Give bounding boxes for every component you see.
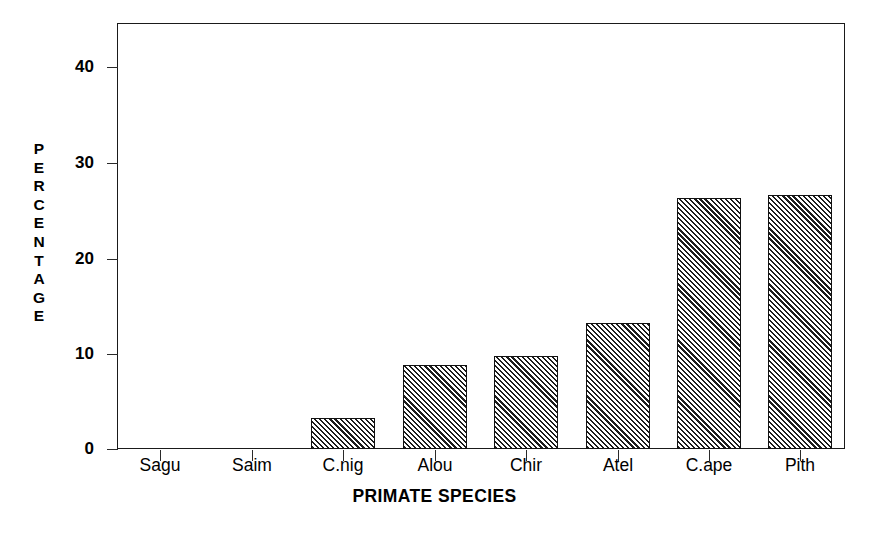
y-tick-mark-0: [107, 449, 118, 450]
bar-c-nig: [311, 418, 375, 449]
x-axis-title: PRIMATE SPECIES: [0, 486, 869, 507]
bar-atel: [586, 323, 650, 449]
y-tick-mark-20: [107, 259, 118, 260]
bar-chir: [494, 356, 558, 449]
bar-pith: [768, 195, 832, 449]
bar-alou: [403, 365, 467, 449]
y-tick-mark-10: [107, 354, 118, 355]
bar-c-ape: [677, 198, 741, 449]
x-tick-label-pith: Pith: [740, 455, 860, 475]
y-tick-mark-40: [107, 67, 118, 68]
y-tick-label-0: 0: [48, 440, 94, 457]
y-tick-label-10: 10: [48, 345, 94, 362]
bar-chart-figure: P E R C E N T A G E 40 30 20 10 0 Sagu S…: [0, 0, 869, 542]
y-tick-label-20: 20: [48, 250, 94, 267]
y-tick-label-40: 40: [48, 58, 94, 75]
y-tick-mark-30: [107, 163, 118, 164]
y-tick-label-30: 30: [48, 154, 94, 171]
